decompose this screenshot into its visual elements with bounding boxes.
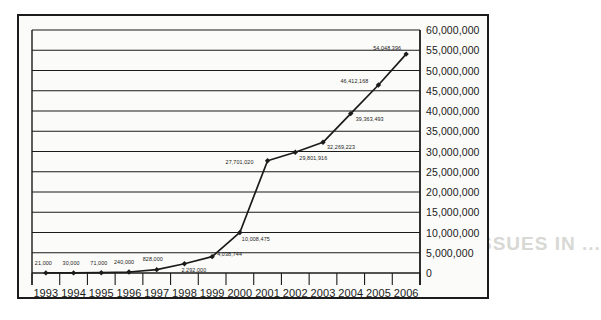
y-axis-tick-label: 15,000,000 xyxy=(426,206,480,218)
data-point-label: 29,801,916 xyxy=(299,155,327,161)
y-axis-tick-label: 10,000,000 xyxy=(426,227,480,239)
plot-area xyxy=(32,30,420,273)
data-point-label: 21,000 xyxy=(35,260,52,266)
data-point-marker xyxy=(293,150,298,155)
y-axis-tick-label: 40,000,000 xyxy=(426,105,480,117)
y-axis-tick-label: 5,000,000 xyxy=(426,247,474,259)
data-point-marker xyxy=(182,261,187,266)
y-axis-tick-label: 45,000,000 xyxy=(426,85,480,97)
data-point-label: 10,008,475 xyxy=(242,236,270,242)
x-axis-tick-label: 1995 xyxy=(89,287,114,299)
y-axis-tick-label: 35,000,000 xyxy=(426,125,480,137)
x-axis-tick-label: 1996 xyxy=(117,287,142,299)
data-point-label: 828,000 xyxy=(143,256,163,262)
y-axis-tick-label: 60,000,000 xyxy=(426,24,480,36)
x-axis-tick-label: 2005 xyxy=(366,287,391,299)
data-point-marker xyxy=(43,270,48,275)
x-axis-tick-label: 1999 xyxy=(200,287,225,299)
y-axis-tick-label: 25,000,000 xyxy=(426,166,480,178)
data-point-label: 39,363,493 xyxy=(356,116,384,122)
x-axis-tick-label: 2001 xyxy=(255,287,280,299)
y-axis-tick-label: 55,000,000 xyxy=(426,44,480,56)
y-axis-tick-label: 0 xyxy=(426,267,432,279)
x-axis-tick-label: 1993 xyxy=(33,287,58,299)
data-point-label: 27,701,020 xyxy=(226,159,254,165)
y-axis-tick-label: 30,000,000 xyxy=(426,146,480,158)
x-axis-tick-label: 1998 xyxy=(172,287,197,299)
chart-series-line xyxy=(32,30,420,273)
x-axis-tick-label: 1997 xyxy=(144,287,169,299)
x-axis-tick-label: 2002 xyxy=(283,287,308,299)
data-point-marker xyxy=(71,270,76,275)
data-point-marker xyxy=(99,270,104,275)
x-axis-tick-label: 2006 xyxy=(394,287,419,299)
data-point-label: 46,412,168 xyxy=(340,78,368,84)
data-point-label: 71,000 xyxy=(90,260,107,266)
y-axis-tick-label: 20,000,000 xyxy=(426,186,480,198)
x-axis-tick-label: 2004 xyxy=(338,287,363,299)
data-point-label: 32,269,223 xyxy=(327,144,355,150)
y-axis-tick-label: 50,000,000 xyxy=(426,65,480,77)
data-point-label: 30,000 xyxy=(63,260,80,266)
data-point-label: 4,038,744 xyxy=(217,251,242,257)
data-point-marker xyxy=(265,158,270,163)
data-point-label: 2,292,000 xyxy=(181,267,206,273)
data-point-marker xyxy=(154,267,159,272)
x-axis-tick-label: 2003 xyxy=(311,287,336,299)
data-point-label: 240,000 xyxy=(114,259,134,265)
data-point-marker xyxy=(126,269,131,274)
chart-figure: 05,000,00010,000,00015,000,00020,000,000… xyxy=(17,14,489,299)
x-axis-tick-label: 2000 xyxy=(227,287,252,299)
data-point-label: 54,048,396 xyxy=(373,45,401,51)
x-axis-tick-label: 1994 xyxy=(61,287,86,299)
